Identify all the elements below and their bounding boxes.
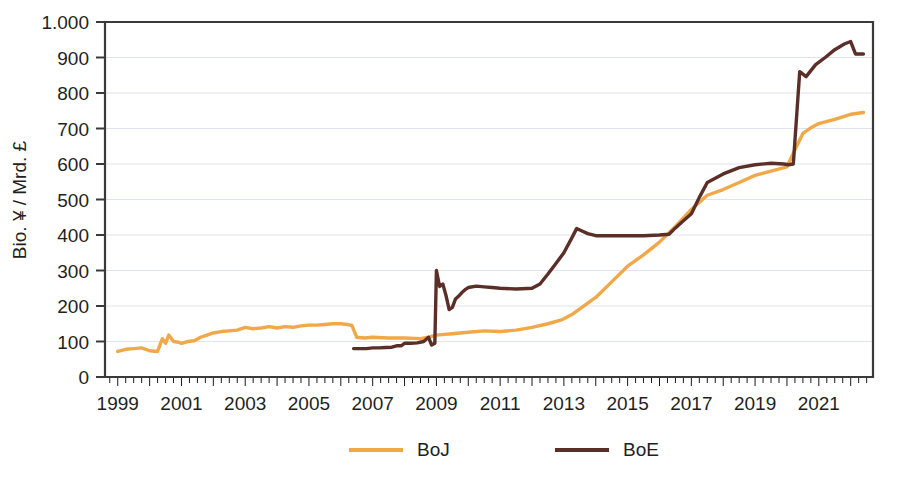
x-axis-tick-labels: 1999200120032005200720092011201320152017…	[97, 393, 840, 414]
legend-label-boj: BoJ	[417, 439, 450, 460]
x-tick-label: 2019	[734, 393, 776, 414]
series-line-boe	[354, 42, 864, 349]
y-tick-label: 300	[57, 261, 89, 282]
y-tick-label: 1.000	[41, 12, 89, 33]
chart-container: 01002003004005006007008009001.000 199920…	[0, 0, 899, 478]
y-axis-tick-labels: 01002003004005006007008009001.000	[41, 12, 89, 388]
x-tick-label: 2009	[415, 393, 457, 414]
x-tick-label: 2005	[288, 393, 330, 414]
x-tick-label: 2007	[352, 393, 394, 414]
y-tick-label: 500	[57, 190, 89, 211]
y-axis-title-text: Bio. ¥ / Mrd. £	[9, 140, 30, 259]
y-tick-label: 200	[57, 296, 89, 317]
y-tick-label: 800	[57, 83, 89, 104]
series-line-boj	[118, 113, 864, 352]
y-axis-title: Bio. ¥ / Mrd. £	[9, 140, 30, 259]
x-tick-label: 2015	[606, 393, 648, 414]
x-axis-minor-ticks	[110, 377, 867, 386]
y-tick-label: 600	[57, 154, 89, 175]
line-chart: 01002003004005006007008009001.000 199920…	[0, 0, 899, 478]
y-tick-label: 100	[57, 332, 89, 353]
legend-label-boe: BoE	[623, 439, 659, 460]
y-tick-label: 900	[57, 48, 89, 69]
x-tick-label: 2021	[798, 393, 840, 414]
series-lines	[118, 42, 864, 352]
x-tick-label: 2001	[160, 393, 202, 414]
x-tick-label: 2013	[543, 393, 585, 414]
x-tick-label: 2017	[670, 393, 712, 414]
x-tick-label: 1999	[97, 393, 139, 414]
y-tick-label: 700	[57, 119, 89, 140]
x-tick-label: 2003	[224, 393, 266, 414]
axis-major-ticks	[96, 22, 105, 377]
x-tick-label: 2011	[480, 393, 521, 414]
y-tick-label: 400	[57, 225, 89, 246]
y-tick-label: 0	[78, 367, 89, 388]
chart-legend: BoJBoE	[349, 439, 659, 460]
gridlines	[105, 58, 873, 342]
